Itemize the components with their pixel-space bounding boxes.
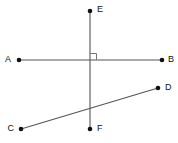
point-a-dot [17,58,22,63]
point-f-dot [88,127,93,132]
geometry-figure: E A B D C F [0,0,178,143]
point-d-label: D [165,82,172,92]
point-b-dot [160,58,165,63]
point-c-dot [19,127,24,132]
geometry-canvas: E A B D C F [0,0,178,143]
point-f-label: F [97,123,103,133]
point-e-label: E [97,4,103,14]
point-e-dot [88,9,93,14]
point-c-label: C [8,123,15,133]
point-d-dot [156,86,161,91]
right-angle-marker [90,54,97,61]
point-b-label: B [168,54,174,64]
point-a-label: A [5,54,11,64]
